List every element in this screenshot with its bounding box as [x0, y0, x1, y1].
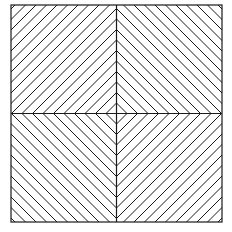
concentric-diamond-diagram — [0, 0, 232, 232]
